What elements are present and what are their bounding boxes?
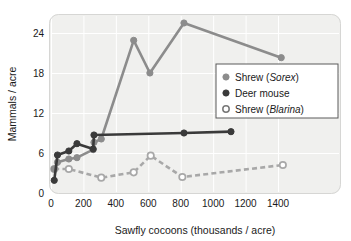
data-point bbox=[54, 152, 60, 158]
data-point bbox=[278, 55, 284, 61]
data-point bbox=[66, 148, 72, 154]
x-axis-title: Sawfly cocoons (thousands / acre) bbox=[115, 224, 276, 236]
y-tick-label: 12 bbox=[33, 108, 45, 119]
x-tick-label: 1000 bbox=[202, 198, 225, 209]
data-point bbox=[280, 162, 286, 168]
data-point bbox=[181, 20, 187, 26]
data-point bbox=[74, 141, 80, 147]
x-tick-label: 400 bbox=[108, 198, 125, 209]
data-point bbox=[98, 174, 104, 180]
x-tick-label: 1200 bbox=[234, 198, 257, 209]
x-tick-label: 0 bbox=[48, 198, 54, 209]
data-point bbox=[228, 129, 234, 135]
y-tick-label: 24 bbox=[33, 28, 45, 39]
data-point bbox=[51, 177, 57, 183]
data-point bbox=[74, 155, 80, 161]
legend-marker-filled-circle-icon bbox=[223, 74, 229, 80]
mammals-vs-sawfly-cocoons-line-chart: 0200400600800100012001400 06121824 Sawfl… bbox=[0, 0, 351, 241]
data-point bbox=[66, 156, 72, 162]
x-axis-tick-labels: 0200400600800100012001400 bbox=[48, 198, 289, 209]
y-tick-label: 6 bbox=[38, 148, 44, 159]
legend-item-label: Shrew (Blarina) bbox=[235, 104, 304, 115]
data-point bbox=[91, 132, 97, 138]
data-point bbox=[98, 136, 104, 142]
chart-legend: Shrew (Sorex)Deer mouseShrew (Blarina) bbox=[216, 64, 338, 118]
data-point bbox=[131, 37, 137, 43]
legend-item-label: Shrew (Sorex) bbox=[235, 72, 299, 83]
legend-species-name: Sorex bbox=[269, 72, 296, 83]
data-point bbox=[181, 130, 187, 136]
x-tick-label: 600 bbox=[140, 198, 157, 209]
y-tick-label: 18 bbox=[33, 68, 45, 79]
y-tick-label: 0 bbox=[38, 188, 44, 199]
data-point bbox=[179, 174, 185, 180]
data-point bbox=[130, 169, 136, 175]
legend-species-name: Blarina bbox=[269, 104, 301, 115]
y-axis-title: Mammals / acre bbox=[6, 67, 18, 142]
x-tick-label: 800 bbox=[172, 198, 189, 209]
data-point bbox=[66, 166, 72, 172]
data-point bbox=[90, 146, 96, 152]
legend-item-label: Deer mouse bbox=[235, 88, 290, 99]
x-tick-label: 200 bbox=[75, 198, 92, 209]
data-point bbox=[147, 70, 153, 76]
legend-marker-open-circle-icon bbox=[223, 106, 229, 112]
y-axis-tick-labels: 06121824 bbox=[33, 28, 45, 199]
data-point bbox=[148, 152, 154, 158]
chart-figure: 0200400600800100012001400 06121824 Sawfl… bbox=[0, 0, 351, 241]
x-tick-label: 1400 bbox=[267, 198, 290, 209]
legend-marker-filled-circle-icon bbox=[223, 90, 229, 96]
